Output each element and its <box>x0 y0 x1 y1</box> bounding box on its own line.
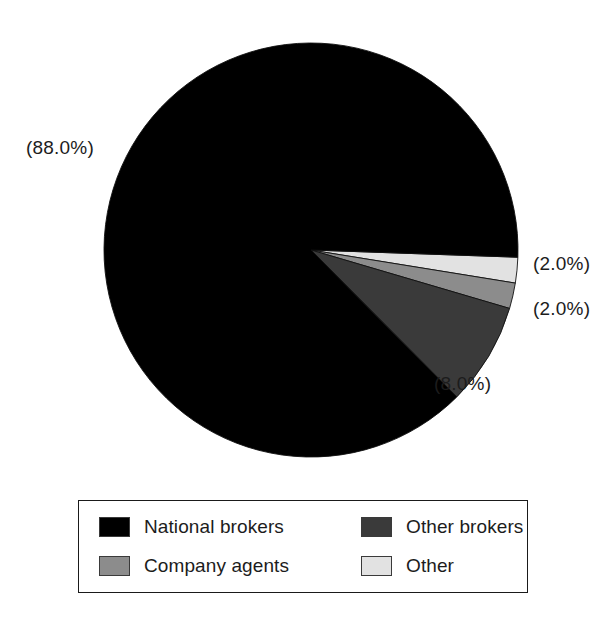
pie-chart-figure: (88.0%) (2.0%) (2.0%) (8.0%) National br… <box>0 0 615 621</box>
pie-chart-svg <box>0 0 615 480</box>
legend-grid: National brokersOther brokersCompany age… <box>79 501 527 592</box>
legend-item-label: Other brokers <box>406 516 523 538</box>
legend-item-label: National brokers <box>144 516 284 538</box>
slice-label-national-brokers: (88.0%) <box>26 137 94 159</box>
legend-item-label: Company agents <box>144 555 289 577</box>
legend-swatch-icon <box>99 517 130 537</box>
slice-label-other: (2.0%) <box>533 253 590 275</box>
legend-swatch-icon <box>361 556 392 576</box>
legend-item-other[interactable]: Other <box>361 555 527 577</box>
legend-swatch-icon <box>361 517 392 537</box>
legend-item-national-brokers[interactable]: National brokers <box>99 516 361 538</box>
legend-swatch-icon <box>99 556 130 576</box>
chart-legend: National brokersOther brokersCompany age… <box>78 500 528 593</box>
legend-item-label: Other <box>406 555 454 577</box>
legend-item-other-brokers[interactable]: Other brokers <box>361 516 527 538</box>
pie-chart-plot-area: (88.0%) (2.0%) (2.0%) (8.0%) <box>0 0 615 480</box>
slice-label-company-agents: (2.0%) <box>533 298 590 320</box>
slice-label-other-brokers: (8.0%) <box>434 373 491 395</box>
legend-item-company-agents[interactable]: Company agents <box>99 555 361 577</box>
